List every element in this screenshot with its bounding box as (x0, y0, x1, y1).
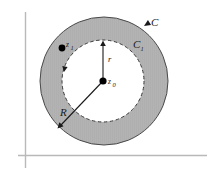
label-radius-R: R (59, 106, 67, 118)
point-z0-dot (99, 77, 106, 84)
point-z1-dot (59, 45, 66, 52)
label-contour-C: C (151, 16, 159, 28)
label-contour-C1-subscript: 1 (141, 45, 144, 52)
annulus-diagram: C C 1 z 1 z 0 r R (0, 0, 213, 178)
annulus-hatch-texture (0, 0, 213, 178)
label-point-z0-base: z (107, 77, 111, 86)
figure-container: C C 1 z 1 z 0 r R (0, 0, 213, 178)
label-point-z1-subscript: 1 (71, 44, 74, 51)
label-point-z1-base: z (65, 40, 69, 49)
